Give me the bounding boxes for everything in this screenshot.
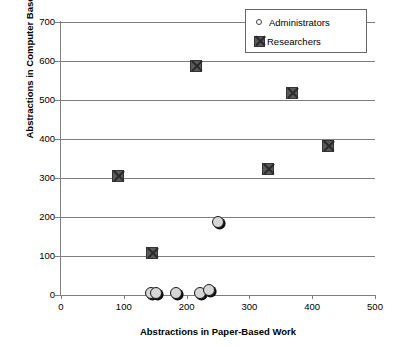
circle-marker-icon <box>252 15 266 29</box>
gridline <box>61 256 375 257</box>
x-tick-label: 100 <box>104 301 144 312</box>
legend: Administrators Researchers <box>245 9 367 53</box>
plot-area <box>61 22 375 295</box>
x-tick <box>124 295 125 299</box>
data-point-administrator <box>150 287 162 299</box>
gridline <box>61 178 375 179</box>
legend-item-administrators: Administrators <box>252 13 330 31</box>
square-x-marker-icon <box>252 34 266 48</box>
x-tick-label: 500 <box>355 301 395 312</box>
data-point-researcher <box>146 247 158 259</box>
x-tick-label: 300 <box>229 301 269 312</box>
legend-label: Administrators <box>269 17 330 28</box>
x-tick <box>187 295 188 299</box>
x-tick <box>312 295 313 299</box>
y-tick-label: 300 <box>15 173 55 183</box>
x-tick-label: 200 <box>167 301 207 312</box>
x-tick <box>375 295 376 299</box>
x-tick <box>61 295 62 299</box>
y-tick-label: 200 <box>15 212 55 222</box>
scatter-chart: Abstractions in Computer Based Work 0100… <box>0 0 400 347</box>
data-point-administrator <box>170 287 182 299</box>
gridline <box>61 100 375 101</box>
x-tick-label: 400 <box>292 301 332 312</box>
x-tick-label: 0 <box>41 301 81 312</box>
x-tick <box>249 295 250 299</box>
y-tick-label: 0 <box>15 290 55 300</box>
y-tick-label: 100 <box>15 251 55 261</box>
data-point-administrator <box>203 284 215 296</box>
legend-item-researchers: Researchers <box>252 32 321 50</box>
gridline <box>61 61 375 62</box>
data-point-researcher <box>322 140 334 152</box>
data-point-administrator <box>212 216 224 228</box>
x-axis-title: Abstractions in Paper-Based Work <box>61 326 375 337</box>
y-tick-label: 500 <box>15 95 55 105</box>
data-point-researcher <box>286 87 298 99</box>
y-tick-label: 400 <box>15 134 55 144</box>
gridline <box>61 295 375 296</box>
data-point-researcher <box>262 163 274 175</box>
data-point-researcher <box>112 170 124 182</box>
y-tick-label: 600 <box>15 56 55 66</box>
y-tick-label: 700 <box>15 17 55 27</box>
data-point-researcher <box>190 60 202 72</box>
legend-label: Researchers <box>267 36 321 47</box>
